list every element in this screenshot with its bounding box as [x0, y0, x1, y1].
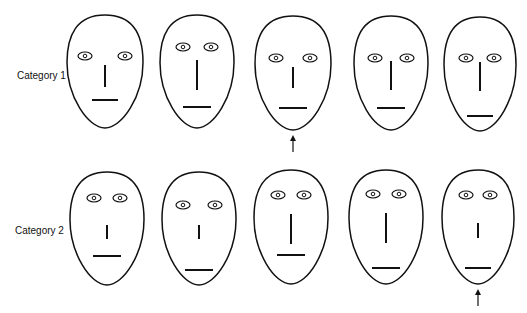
arrow-up-icon [475, 289, 481, 306]
face-5 [444, 17, 516, 131]
left-eye-icon [271, 191, 285, 199]
left-eye-icon [78, 52, 92, 60]
left-eye-icon [459, 54, 473, 62]
right-eye-icon [118, 52, 132, 60]
right-eye-icon [303, 54, 317, 62]
right-eye-icon [400, 54, 414, 62]
right-eye-icon [487, 54, 501, 62]
left-eye-icon [366, 190, 380, 198]
faces-diagram [0, 0, 527, 313]
right-eye-icon [392, 190, 406, 198]
face-4 [354, 16, 428, 130]
left-eye-icon [269, 54, 283, 62]
left-eye-icon [368, 54, 382, 62]
face-3 [255, 16, 331, 152]
right-eye-icon [483, 191, 497, 199]
face-9 [349, 170, 423, 284]
right-eye-icon [208, 201, 222, 209]
face-6 [70, 172, 144, 285]
left-eye-icon [176, 201, 190, 209]
face-10 [442, 170, 514, 306]
arrow-up-icon [290, 135, 296, 152]
right-eye-icon [297, 191, 311, 199]
face-1 [67, 15, 143, 128]
face-7 [162, 172, 236, 285]
face-8 [254, 170, 328, 284]
face-2 [160, 15, 234, 128]
left-eye-icon [176, 43, 190, 51]
right-eye-icon [113, 194, 127, 202]
left-eye-icon [459, 191, 473, 199]
left-eye-icon [87, 194, 101, 202]
right-eye-icon [204, 43, 218, 51]
